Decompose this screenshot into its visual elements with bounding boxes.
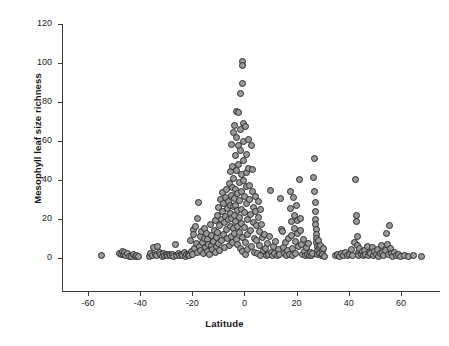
data-point: [240, 157, 247, 164]
plot-area: [0, 0, 449, 346]
data-point: [267, 187, 274, 194]
x-tick-mark: [297, 292, 298, 296]
x-axis-label: Latitude: [0, 318, 449, 329]
data-point: [249, 166, 256, 173]
data-point: [98, 252, 105, 259]
data-point: [312, 199, 319, 206]
data-point: [297, 215, 304, 222]
x-tick-label: -60: [68, 298, 108, 308]
data-point: [352, 176, 359, 183]
x-tick-label: 20: [277, 298, 317, 308]
data-point: [194, 215, 201, 222]
data-point: [247, 227, 254, 234]
y-tick-label: 20: [0, 213, 52, 223]
data-point: [135, 253, 142, 260]
data-point: [310, 174, 317, 181]
data-point: [239, 62, 246, 69]
x-tick-label: -20: [172, 298, 212, 308]
data-point: [258, 221, 265, 228]
x-tick-label: -40: [120, 298, 160, 308]
data-point: [235, 109, 242, 116]
data-point: [239, 80, 246, 87]
y-axis-line: [62, 24, 63, 292]
data-point: [248, 142, 255, 149]
y-tick-mark: [58, 141, 62, 142]
data-point: [255, 214, 262, 221]
data-point: [311, 188, 318, 195]
data-point: [279, 228, 286, 235]
data-point: [243, 151, 250, 158]
data-point: [297, 227, 304, 234]
x-tick-label: 0: [224, 298, 264, 308]
x-tick-mark: [401, 292, 402, 296]
data-point: [242, 123, 249, 130]
data-point: [255, 198, 262, 205]
y-tick-label: 80: [0, 96, 52, 106]
scatter-plot-figure: 020406080100120 -60-40-200204060 Mesophy…: [0, 0, 449, 346]
y-axis-label: Mesophyll leaf size richness: [32, 34, 43, 244]
data-point: [272, 238, 279, 245]
data-point: [311, 155, 318, 162]
x-tick-mark: [192, 292, 193, 296]
data-point: [354, 233, 361, 240]
data-point: [257, 206, 264, 213]
x-tick-mark: [244, 292, 245, 296]
y-tick-mark: [58, 63, 62, 64]
y-tick-mark: [58, 102, 62, 103]
data-point: [292, 250, 299, 257]
data-point: [296, 176, 303, 183]
x-tick-label: 60: [381, 298, 421, 308]
data-point: [353, 218, 360, 225]
data-point: [195, 199, 202, 206]
data-point: [172, 241, 179, 248]
y-tick-mark: [58, 24, 62, 25]
y-tick-mark: [58, 258, 62, 259]
y-tick-label: 0: [0, 252, 52, 262]
x-tick-mark: [349, 292, 350, 296]
data-point: [383, 230, 390, 237]
data-point: [312, 208, 319, 215]
x-tick-mark: [140, 292, 141, 296]
data-point: [410, 252, 417, 259]
data-point: [233, 134, 240, 141]
data-point: [386, 222, 393, 229]
data-point: [277, 195, 284, 202]
y-tick-label: 60: [0, 135, 52, 145]
y-tick-label: 100: [0, 57, 52, 67]
y-tick-label: 120: [0, 18, 52, 28]
data-point: [320, 245, 327, 252]
y-tick-label: 40: [0, 174, 52, 184]
data-point: [228, 141, 235, 148]
data-point: [305, 240, 312, 247]
x-tick-label: 40: [329, 298, 369, 308]
x-axis-line: [62, 291, 440, 292]
y-tick-mark: [58, 219, 62, 220]
data-point: [418, 253, 425, 260]
data-point: [293, 202, 300, 209]
data-point: [321, 253, 328, 260]
data-point: [237, 90, 244, 97]
x-tick-mark: [88, 292, 89, 296]
y-tick-mark: [58, 180, 62, 181]
data-point: [290, 194, 297, 201]
